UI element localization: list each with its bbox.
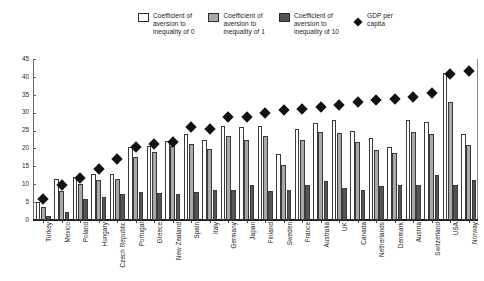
bar — [226, 136, 231, 220]
legend-label: Coefficient of aversion to inequality of… — [294, 12, 339, 37]
legend-label: GDP per capita — [367, 12, 393, 28]
bar — [287, 190, 292, 220]
bar — [207, 149, 212, 220]
x-axis-tick-mark — [302, 220, 303, 223]
x-axis-tick-label: Norway — [471, 222, 478, 244]
x-axis-tick-mark — [247, 220, 248, 223]
x-axis-tick-label: Finland — [267, 222, 274, 243]
x-axis-tick-label: USA — [452, 222, 459, 235]
bar — [443, 73, 448, 220]
x-axis-tick-label: Australia — [323, 222, 330, 247]
bar — [448, 102, 453, 220]
diamond-icon — [353, 13, 363, 23]
x-axis-tick-mark — [265, 220, 266, 223]
x-axis-tick-mark — [284, 220, 285, 223]
bar — [73, 177, 78, 220]
x-axis-tick-label: Mexico — [64, 222, 71, 243]
bar — [374, 150, 379, 220]
bar — [424, 122, 429, 220]
square-darkgray-icon — [279, 13, 290, 22]
bar — [300, 140, 305, 221]
x-axis-tick-mark — [339, 220, 340, 223]
x-axis-tick-label: Netherlands — [378, 222, 385, 257]
x-axis-tick-label: France — [304, 222, 311, 242]
legend-item-aversion-10: Coefficient of aversion to inequality of… — [279, 12, 339, 37]
bar — [250, 185, 255, 220]
bar — [313, 123, 318, 220]
bars-layer — [34, 59, 478, 220]
y-axis-tick-label: 15 — [1, 163, 29, 169]
bar — [147, 146, 152, 220]
x-axis-tick-mark — [413, 220, 414, 223]
x-axis-tick-label: Greece — [156, 222, 163, 243]
bar-group — [202, 59, 217, 220]
bar — [152, 152, 157, 220]
bar-group — [73, 59, 88, 220]
legend-item-aversion-0: Coefficient of aversion to inequality of… — [138, 12, 194, 37]
bar — [194, 192, 199, 220]
x-axis-tick-mark — [210, 220, 211, 223]
bar-group — [406, 59, 421, 220]
x-axis-tick-label: Switzerland — [434, 222, 441, 256]
bar — [36, 202, 41, 220]
bar — [165, 141, 170, 220]
x-axis-tick-mark — [43, 220, 44, 223]
bar-group — [461, 59, 476, 220]
x-axis-tick-label: Japan — [249, 222, 256, 240]
bar-group — [369, 59, 384, 220]
bar — [96, 180, 101, 220]
bar — [91, 174, 96, 221]
bar — [472, 180, 477, 220]
x-axis-tick-label: UK — [341, 222, 348, 231]
bar — [239, 127, 244, 220]
bar-group — [258, 59, 273, 220]
bar — [379, 186, 384, 220]
x-axis-tick-label: Spain — [193, 222, 200, 239]
bar — [337, 133, 342, 220]
chart-legend: Coefficient of aversion to inequality of… — [138, 12, 393, 37]
y-axis-tick-label: 40 — [1, 74, 29, 80]
bar — [221, 126, 226, 220]
x-axis-tick-mark — [191, 220, 192, 223]
x-axis-tick-label: Turkey — [45, 222, 52, 242]
bar — [184, 134, 189, 220]
bar — [65, 212, 70, 220]
bar — [429, 134, 434, 220]
bar — [41, 207, 46, 220]
bar — [324, 181, 329, 220]
bar-group — [350, 59, 365, 220]
bar — [435, 175, 440, 220]
bar — [461, 134, 466, 220]
x-axis-tick-label: Italy — [212, 222, 219, 234]
x-axis-tick-mark — [99, 220, 100, 223]
bar-group — [128, 59, 143, 220]
x-axis-tick-mark — [117, 220, 118, 223]
x-axis-tick-mark — [154, 220, 155, 223]
x-axis-tick-mark — [376, 220, 377, 223]
legend-label: Coefficient of aversion to inequality of… — [223, 12, 264, 37]
bar-group — [239, 59, 254, 220]
y-axis-tick-label: 25 — [1, 127, 29, 133]
bar — [305, 185, 310, 220]
bar — [318, 132, 323, 220]
bar-group — [387, 59, 402, 220]
bar — [202, 140, 207, 221]
x-axis-tick-label: Poland — [82, 222, 89, 242]
chart-container: Coefficient of aversion to inequality of… — [0, 0, 484, 281]
x-axis-tick-label: Sweden — [286, 222, 293, 245]
y-axis-tick-label: 30 — [1, 109, 29, 115]
bar — [83, 199, 88, 220]
x-axis-tick-label: Germany — [230, 222, 237, 249]
legend-label: Coefficient of aversion to inequality of… — [153, 12, 194, 37]
x-axis-tick-label: Hungary — [101, 222, 108, 247]
x-axis-tick-label: Portugal — [138, 222, 145, 246]
bar — [332, 120, 337, 220]
y-axis-tick-label: 5 — [1, 199, 29, 205]
bar — [398, 185, 403, 220]
bar — [268, 191, 273, 220]
y-axis-tick-label: 20 — [1, 145, 29, 151]
bar — [59, 191, 64, 220]
bar — [416, 185, 421, 220]
bar-group — [443, 59, 458, 220]
bar — [295, 129, 300, 220]
